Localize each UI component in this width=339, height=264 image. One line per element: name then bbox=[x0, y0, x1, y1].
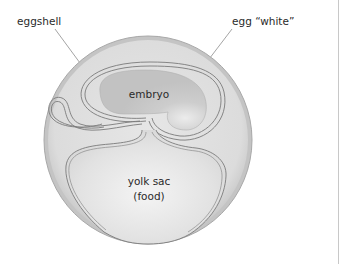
embryo-label: embryo bbox=[129, 88, 169, 100]
egg-diagram: eggshell egg “white” embryo yolk sac (fo… bbox=[0, 0, 339, 264]
yolk-sac-label: yolk sac bbox=[128, 175, 171, 187]
egg-diagram-svg: eggshell egg “white” embryo yolk sac (fo… bbox=[0, 0, 339, 264]
egg-white-label: egg “white” bbox=[232, 15, 294, 27]
eggshell-label: eggshell bbox=[17, 15, 61, 27]
eggshell-leader-line bbox=[55, 29, 80, 63]
yolk-sac-food-label: (food) bbox=[133, 190, 164, 202]
